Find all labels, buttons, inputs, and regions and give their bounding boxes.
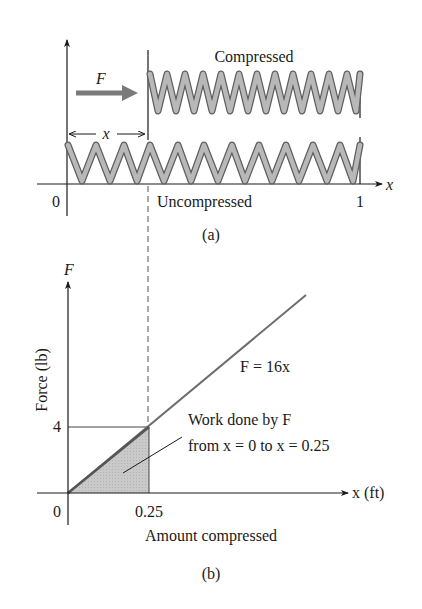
axis-b-x-label: x (ft): [352, 484, 384, 502]
compressed-label: Compressed: [214, 48, 293, 66]
displacement-label: x: [101, 125, 109, 142]
uncompressed-label: Uncompressed: [157, 193, 252, 211]
tick-b-x: 0.25: [135, 503, 163, 520]
tick-b-y: 4: [53, 418, 61, 435]
figure-b: F Force (lb) x (ft) 0 0.25 4 Amount comp…: [33, 261, 384, 583]
force-label: F: [95, 70, 106, 87]
uncompressed-spring: [68, 145, 360, 181]
tick-b-origin: 0: [53, 503, 61, 520]
spring-work-diagram: F x Compressed Uncompressed x 0 1 (a) F …: [0, 0, 422, 609]
axis-b-y-var: F: [63, 261, 74, 278]
tick-a-0: 0: [52, 193, 60, 210]
axis-b-y-label: Force (lb): [33, 348, 51, 412]
annotation-line-2: from x = 0 to x = 0.25: [188, 437, 330, 454]
caption-b: (b): [202, 565, 221, 583]
axis-b-x-title: Amount compressed: [145, 527, 277, 545]
force-arrow: [76, 85, 138, 101]
figure-a: F x Compressed Uncompressed x 0 1 (a): [37, 40, 393, 244]
compressed-spring: [150, 74, 360, 111]
annotation-line-1: Work done by F: [188, 411, 291, 429]
tick-a-1: 1: [356, 193, 364, 210]
line-label: F = 16x: [240, 358, 290, 375]
axis-a-x-label: x: [385, 176, 393, 193]
caption-a: (a): [202, 226, 220, 244]
